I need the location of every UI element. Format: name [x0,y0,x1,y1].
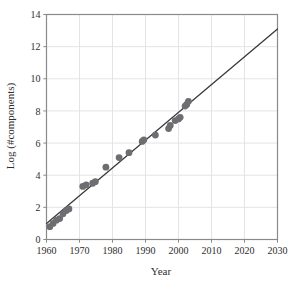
data-point [167,122,174,129]
x-tick-label: 1970 [70,245,90,256]
y-tick-label: 10 [31,73,41,84]
data-point [66,206,73,213]
x-tick-label: 2030 [268,245,288,256]
scatter-plot: 19601970198019902000201020202030 0246810… [0,0,297,285]
x-tick-label: 2020 [235,245,255,256]
data-point [126,149,133,156]
x-tick-label: 2000 [169,245,189,256]
y-tick-labels: 02468101214 [31,9,41,245]
y-tick-label: 14 [31,9,41,20]
y-tick-label: 4 [36,170,41,181]
data-point [83,181,90,188]
trend-line [47,29,278,223]
x-tick-label: 1960 [37,245,57,256]
axis-ticks [43,15,277,243]
data-points [46,98,191,230]
y-tick-label: 2 [36,202,41,213]
y-tick-label: 0 [36,234,41,245]
data-point [177,114,184,121]
y-tick-label: 6 [36,138,41,149]
trend-line-segment [47,29,278,223]
data-point [185,98,192,105]
x-tick-label: 1990 [136,245,156,256]
x-tick-label: 2010 [202,245,222,256]
y-tick-label: 8 [36,106,41,117]
data-point [152,132,159,139]
data-point [92,178,99,185]
data-point [116,154,123,161]
x-tick-labels: 19601970198019902000201020202030 [37,245,288,256]
y-axis-label: Log (#components) [4,82,17,169]
x-axis-label: Year [151,265,172,277]
data-point [103,164,110,171]
y-tick-label: 12 [31,41,41,52]
x-tick-label: 1980 [103,245,123,256]
data-point [140,136,147,143]
chart-figure: 19601970198019902000201020202030 0246810… [0,0,297,285]
